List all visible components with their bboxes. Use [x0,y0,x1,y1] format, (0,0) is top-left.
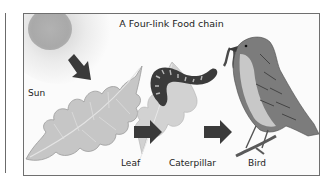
arrow-sun-to-leaf [68,54,91,80]
illustration-layer [24,14,319,175]
label-leaf: Leaf [121,158,140,168]
label-bird: Bird [248,158,266,168]
left-divider-line [5,13,6,173]
diagram-title: A Four-link Food chain [24,18,319,29]
label-caterpillar: Caterpillar [169,158,216,168]
arrow-caterpillar-to-bird [204,120,232,144]
leaf-illustration [26,66,142,160]
label-sun: Sun [28,88,45,98]
food-chain-diagram: A Four-link Food chain Sun Leaf Caterpil… [23,13,320,176]
bird-illustration [228,37,319,156]
